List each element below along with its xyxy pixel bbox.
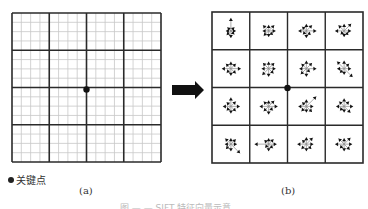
orientation-arrowhead-icon <box>310 104 313 108</box>
orientation-arrowhead-icon <box>299 67 302 71</box>
orientation-arrowhead-icon <box>262 67 265 71</box>
orientation-arrowhead-icon <box>238 67 241 71</box>
orientation-arrowhead-icon <box>229 148 233 151</box>
orientation-arrowhead-icon <box>274 142 277 146</box>
orientation-arrowhead-icon <box>304 74 308 77</box>
orientation-arrowhead-icon <box>350 104 353 108</box>
sift-figure: 关键点 (a) (b) 图 — — SIFT 特征向量示意 <box>0 0 368 209</box>
keypoint-marker <box>284 85 290 91</box>
orientation-arrowhead-icon <box>304 61 308 64</box>
orientation-arrowhead-icon <box>273 67 276 71</box>
orientation-arrowhead-icon <box>229 97 233 100</box>
orientation-arrowhead-icon <box>225 142 228 146</box>
orientation-arrowhead-icon <box>222 67 225 71</box>
orientation-arrowhead-icon <box>342 24 346 27</box>
orientation-arrowhead-icon <box>304 137 308 140</box>
figure-canvas <box>0 0 368 209</box>
orientation-arrowhead-icon <box>229 35 233 38</box>
orientation-arrowhead-icon <box>342 148 346 151</box>
transform-arrow-icon <box>172 81 204 99</box>
orientation-arrowhead-icon <box>273 29 276 33</box>
orientation-arrowhead-icon <box>234 142 237 146</box>
orientation-arrowhead-icon <box>267 62 271 65</box>
keypoint-legend-icon <box>8 177 14 183</box>
figure-caption: 图 — — SIFT 特征向量示意 <box>120 201 231 209</box>
orientation-arrowhead-icon <box>237 104 240 108</box>
orientation-arrowhead-icon <box>255 142 258 146</box>
orientation-arrowhead-icon <box>304 148 308 151</box>
orientation-arrowhead-icon <box>304 109 308 112</box>
orientation-arrowhead-icon <box>267 111 271 114</box>
panel-a-label: (a) <box>79 185 93 196</box>
orientation-arrowhead-icon <box>342 138 346 141</box>
orientation-arrowhead-icon <box>342 72 346 75</box>
keypoint-marker <box>83 86 89 92</box>
orientation-arrowhead-icon <box>267 148 271 151</box>
orientation-arrowhead-icon <box>275 104 278 108</box>
orientation-arrowhead-icon <box>229 62 233 65</box>
orientation-arrowhead-icon <box>313 67 316 71</box>
orientation-arrowhead-icon <box>298 104 301 108</box>
orientation-arrowhead-icon <box>342 109 346 112</box>
orientation-arrowhead-icon <box>304 35 308 38</box>
orientation-arrowhead-icon <box>229 110 233 113</box>
orientation-arrowhead-icon <box>336 104 339 108</box>
orientation-arrowhead-icon <box>223 104 226 108</box>
orientation-arrowhead-icon <box>335 142 338 146</box>
orientation-arrowhead-icon <box>267 100 271 103</box>
orientation-arrowhead-icon <box>229 73 233 76</box>
orientation-arrowhead-icon <box>267 74 271 77</box>
orientation-arrowhead-icon <box>342 98 346 101</box>
panel-b-label: (b) <box>281 185 295 196</box>
orientation-arrowhead-icon <box>342 61 346 64</box>
orientation-arrowhead-icon <box>229 18 233 21</box>
orientation-arrowhead-icon <box>348 67 351 71</box>
legend: 关键点 <box>8 172 46 187</box>
orientation-arrowhead-icon <box>313 29 316 33</box>
orientation-arrowhead-icon <box>267 25 271 28</box>
orientation-arrowhead-icon <box>349 142 352 146</box>
orientation-arrowhead-icon <box>263 29 266 33</box>
orientation-arrowhead-icon <box>337 67 340 71</box>
orientation-arrowhead-icon <box>335 29 338 33</box>
orientation-arrowhead-icon <box>310 142 313 146</box>
orientation-arrowhead-icon <box>229 138 233 141</box>
orientation-arrowhead-icon <box>260 104 263 108</box>
orientation-arrowhead-icon <box>304 24 308 27</box>
legend-text: 关键点 <box>16 175 46 186</box>
orientation-arrowhead-icon <box>298 29 301 33</box>
orientation-arrowhead-icon <box>297 142 300 146</box>
orientation-arrowhead-icon <box>304 99 308 102</box>
orientation-arrowhead-icon <box>348 29 351 33</box>
